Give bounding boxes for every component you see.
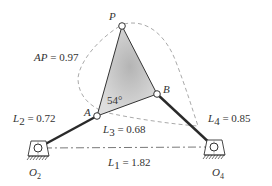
label-o2: O2 (29, 166, 41, 181)
pivot-joint-o2 (34, 144, 42, 152)
label-ap-length: AP = 0.97 (33, 51, 79, 63)
coupler-triangle (97, 26, 157, 116)
joint-a (94, 113, 101, 120)
label-a: A (83, 106, 91, 118)
ground-link-line (44, 147, 208, 148)
joint-b (154, 91, 161, 98)
label-l2-length: L2 = 0.72 (12, 112, 56, 127)
label-l1-length: L1 = 1.82 (107, 156, 151, 171)
pivot-joint-o4 (210, 143, 218, 151)
coupler-angle-label: 54° (107, 94, 122, 106)
ground-pivot-o2 (27, 141, 49, 160)
label-b: B (163, 83, 170, 95)
four-bar-linkage-diagram: P A B O2 O4 54° AP = 0.97 L2 = 0.72 L3 =… (0, 0, 272, 186)
label-l4-length: L4 = 0.85 (207, 112, 251, 127)
joint-p (119, 23, 126, 30)
label-l3-length: L3 = 0.68 (102, 123, 146, 138)
rocker-link-l4 (157, 94, 214, 147)
ground-pivot-o4 (203, 140, 225, 159)
label-p: P (108, 10, 116, 22)
label-o4: O4 (212, 166, 224, 181)
